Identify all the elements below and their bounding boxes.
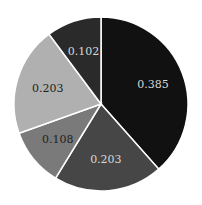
slice-label-2: 0.108 <box>42 133 74 146</box>
slice-label-3: 0.203 <box>32 82 64 95</box>
pie-chart: 0.3850.2030.1080.2030.102 <box>0 0 202 205</box>
slice-label-1: 0.203 <box>90 153 122 166</box>
slice-label-4: 0.102 <box>68 45 100 58</box>
slice-label-0: 0.385 <box>137 78 169 91</box>
